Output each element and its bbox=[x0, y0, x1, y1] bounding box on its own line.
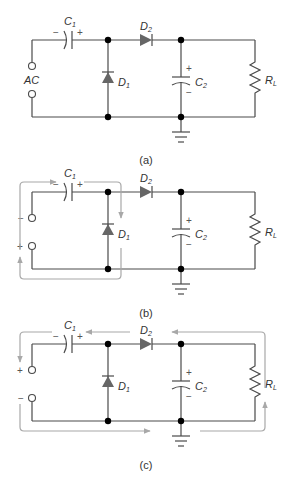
c2-label: C2 bbox=[195, 76, 207, 89]
panel-b: C1 − + D2 D1 + − C2 RL − + (b) bbox=[17, 167, 277, 319]
panel-a: C1 − + D2 D1 + − C2 RL AC (a) bbox=[23, 15, 277, 166]
d1-label: D1 bbox=[118, 228, 130, 241]
c2-minus: − bbox=[186, 391, 192, 402]
d2-label: D2 bbox=[140, 172, 152, 185]
c1-minus: − bbox=[53, 179, 59, 190]
c1-minus: − bbox=[53, 331, 59, 342]
rl-label: RL bbox=[265, 378, 277, 391]
c2-minus: − bbox=[186, 239, 192, 250]
c2-minus: − bbox=[186, 87, 192, 98]
c2-plus: + bbox=[186, 63, 192, 74]
c2-label: C2 bbox=[195, 380, 207, 393]
panel-c: C1 − + D2 D1 + − C2 RL + − (c) bbox=[17, 319, 277, 471]
source-bottom-sign: − bbox=[18, 393, 24, 404]
source-top-sign: − bbox=[18, 213, 24, 224]
c1-plus: + bbox=[77, 27, 83, 38]
rl-label: RL bbox=[265, 226, 277, 239]
c1-plus: + bbox=[77, 331, 83, 342]
ac-source-label: AC bbox=[23, 74, 39, 86]
c1-label: C1 bbox=[64, 167, 76, 180]
d2-label: D2 bbox=[140, 324, 152, 337]
d2-label: D2 bbox=[140, 20, 152, 33]
c1-plus: + bbox=[77, 179, 83, 190]
c2-plus: + bbox=[186, 215, 192, 226]
caption-c: (c) bbox=[140, 459, 153, 471]
c1-minus: − bbox=[53, 27, 59, 38]
c1-label: C1 bbox=[64, 319, 76, 332]
source-top-sign: + bbox=[17, 365, 23, 376]
c2-plus: + bbox=[186, 367, 192, 378]
caption-b: (b) bbox=[139, 307, 152, 319]
d1-label: D1 bbox=[118, 76, 130, 89]
c1-label: C1 bbox=[64, 15, 76, 28]
rl-label: RL bbox=[265, 74, 277, 87]
caption-a: (a) bbox=[139, 154, 152, 166]
d1-label: D1 bbox=[118, 380, 130, 393]
c2-label: C2 bbox=[195, 228, 207, 241]
